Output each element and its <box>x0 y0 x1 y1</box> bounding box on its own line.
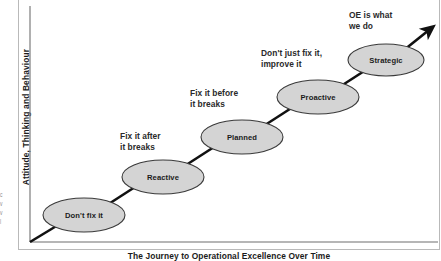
callout-reactive: Fix it after it breaks <box>120 131 161 153</box>
operational-excellence-journey-diagram: Attitude, Thinking and Behaviour The Jou… <box>0 0 441 261</box>
callout-proactive: Don't just fix it, improve it <box>261 48 322 70</box>
stage-label-planned: Planned <box>227 133 257 142</box>
stage-label-proactive: Proactive <box>300 93 335 102</box>
callout-strategic: OE is what we do <box>349 10 392 32</box>
stage-label-strategic: Strategic <box>369 56 402 65</box>
callout-planned: Fix it before it breaks <box>190 88 238 110</box>
stage-label-reactive: Reactive <box>147 173 179 182</box>
diagram-canvas: Don't fix it Reactive Planned Proactive … <box>0 0 441 261</box>
stage-label-dont-fix-it: Don't fix it <box>65 211 103 220</box>
